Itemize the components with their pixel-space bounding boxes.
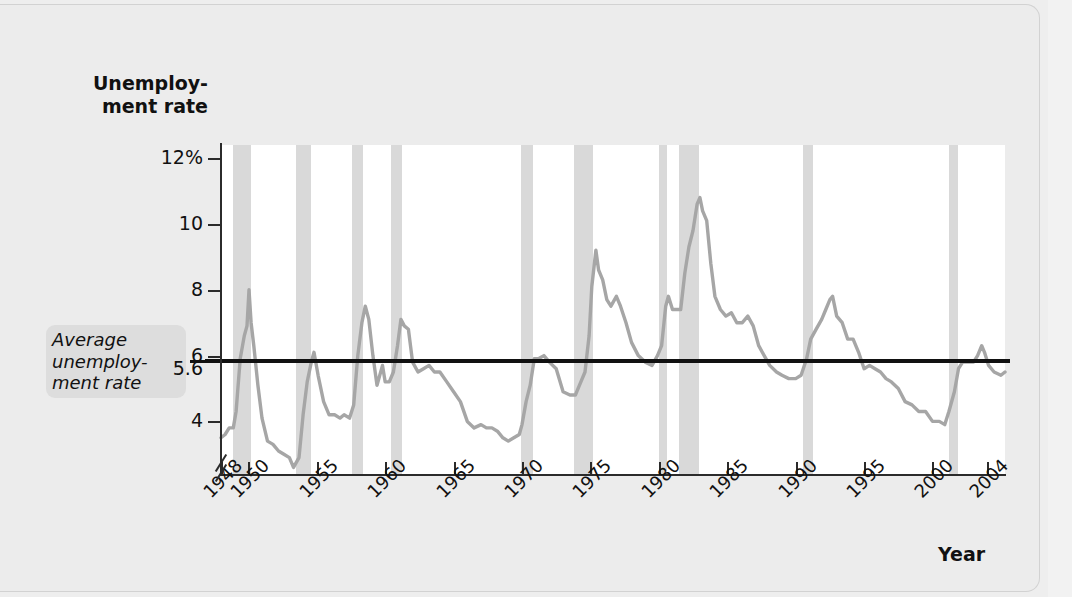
average-rate-callout: Average unemploy- ment rate xyxy=(46,325,186,398)
y-axis-tick xyxy=(208,421,221,423)
callout-line-1: Average xyxy=(52,329,180,351)
y-axis-title-line-2: ment rate xyxy=(58,95,208,118)
y-axis-tick xyxy=(208,158,221,160)
y-axis-tick xyxy=(208,290,221,292)
x-axis-line xyxy=(220,474,1006,476)
y-axis-tick xyxy=(208,224,221,226)
figure-page: Unemploy- ment rate Average unemploy- me… xyxy=(0,0,1072,597)
x-axis-title: Year xyxy=(938,543,985,565)
y-axis-tick-label: 12% xyxy=(161,146,203,168)
y-axis-tick-label: 10 xyxy=(179,212,203,234)
average-unemployment-line xyxy=(205,359,1010,363)
plot-area xyxy=(221,145,1005,474)
y-axis-tick-label: 8 xyxy=(191,278,203,300)
y-axis-line xyxy=(220,143,222,476)
chart-lines xyxy=(221,145,1005,474)
callout-line-2: unemploy- xyxy=(52,351,180,373)
callout-line-3: ment rate xyxy=(52,372,180,394)
y-axis-tick-label: 4 xyxy=(191,409,203,431)
y-axis-tick-label: 5.6 xyxy=(173,357,203,379)
y-axis-title: Unemploy- ment rate xyxy=(58,72,208,118)
unemployment-rate-line xyxy=(221,198,1005,468)
y-axis-tick xyxy=(208,356,221,358)
y-axis-title-line-1: Unemploy- xyxy=(58,72,208,95)
